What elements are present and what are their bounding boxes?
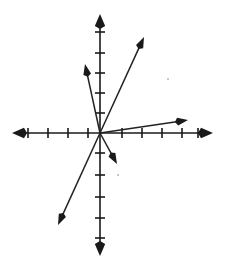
ray-right-shallow-line bbox=[100, 121, 182, 133]
coordinate-plane-figure bbox=[0, 0, 226, 263]
y-axis-top-arrow-icon bbox=[95, 14, 105, 29]
x-axis-left-arrow-icon bbox=[12, 128, 27, 138]
graph-canvas bbox=[0, 0, 226, 263]
rays-group bbox=[58, 37, 188, 225]
scan-speck bbox=[167, 78, 169, 80]
x-axis-right-arrow-icon bbox=[198, 128, 213, 138]
y-axis-bottom-arrow-icon bbox=[95, 241, 105, 256]
ray-right-shallow-arrow-icon bbox=[175, 118, 188, 126]
ray-right-shallow bbox=[100, 118, 188, 133]
ray-upper-left-steep-arrow-icon bbox=[83, 64, 91, 77]
ray-lower-left-long-line bbox=[61, 133, 100, 219]
ray-upper-left-steep bbox=[83, 64, 100, 133]
ray-upper-left-steep-line bbox=[86, 70, 100, 133]
x-axis-group bbox=[12, 128, 213, 138]
ray-lower-left-long-arrow-icon bbox=[58, 213, 66, 225]
y-axis-group bbox=[95, 14, 105, 256]
ray-upper-right-steep-line bbox=[100, 43, 141, 133]
ray-lower-right-short bbox=[100, 133, 117, 164]
scan-speck bbox=[117, 174, 119, 176]
ray-upper-right-steep-arrow-icon bbox=[136, 37, 144, 49]
ray-lower-right-short-arrow-icon bbox=[109, 152, 117, 164]
ray-lower-left-long bbox=[58, 133, 100, 225]
ray-upper-right-steep bbox=[100, 37, 144, 133]
